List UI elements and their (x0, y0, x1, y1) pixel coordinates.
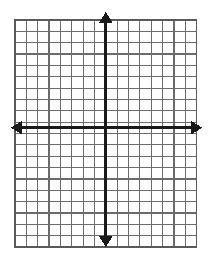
coordinate-plane-figure (0, 0, 208, 253)
coordinate-plane-svg (0, 0, 208, 253)
